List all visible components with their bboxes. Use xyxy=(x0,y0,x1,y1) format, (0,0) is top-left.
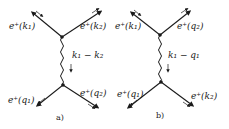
momentum-arrow-icon xyxy=(92,9,98,13)
vertex-bottom xyxy=(159,80,163,84)
label-bottom-left: e⁺(q₁) xyxy=(8,95,35,105)
label-bottom-right: e⁺(k₂) xyxy=(191,91,218,101)
vertex-top xyxy=(158,33,162,37)
vertex-bottom xyxy=(61,83,65,87)
photon-propagator xyxy=(61,37,64,85)
momentum-arrow-icon xyxy=(36,11,42,16)
photon-propagator xyxy=(159,35,162,82)
momentum-arrow-icon xyxy=(131,100,137,105)
label-top-left: e⁺(k₁) xyxy=(9,21,36,31)
label-propagator: k₁ − k₂ xyxy=(72,50,104,60)
diagram-a: e⁺(k₁) e⁺(k₂) k₁ − k₂ e⁺(q₁) e⁺(q₂) a) xyxy=(8,9,107,122)
line-bottom-left xyxy=(38,85,63,105)
line-bottom-right xyxy=(161,82,192,105)
label-bottom-left: e⁺(q₁) xyxy=(117,89,144,99)
label-top-left: e⁺(k₁) xyxy=(115,21,142,31)
caption-a: a) xyxy=(56,113,64,122)
label-propagator: k₁ − q₁ xyxy=(168,50,200,60)
feynman-diagrams: e⁺(k₁) e⁺(k₂) k₁ − k₂ e⁺(q₁) e⁺(q₂) a) e… xyxy=(0,0,229,129)
line-top-left xyxy=(33,13,62,37)
diagram-b: e⁺(k₁) e⁺(q₂) k₁ − q₁ e⁺(q₁) e⁺(k₂) b) xyxy=(115,9,218,120)
label-top-right: e⁺(k₂) xyxy=(80,21,107,31)
label-top-right: e⁺(q₂) xyxy=(177,21,204,31)
label-bottom-right: e⁺(q₂) xyxy=(80,88,107,98)
caption-b: b) xyxy=(156,111,164,120)
momentum-arrow-icon xyxy=(181,9,187,13)
vertex-top xyxy=(60,35,64,39)
momentum-arrow-icon xyxy=(134,10,140,15)
